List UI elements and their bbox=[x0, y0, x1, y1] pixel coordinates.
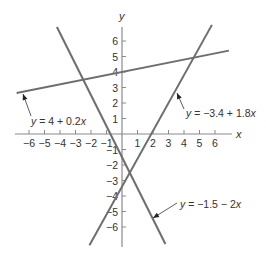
x-tick-label: 5 bbox=[197, 137, 203, 149]
x-tick-label: −2 bbox=[85, 137, 97, 149]
y-tick-label: −6 bbox=[106, 221, 118, 233]
x-tick-label: 4 bbox=[181, 137, 187, 149]
x-tick-label: 3 bbox=[166, 137, 172, 149]
equation-label-line2: y = −1.5 − 2x bbox=[179, 198, 242, 210]
x-tick-label: −6 bbox=[23, 137, 35, 149]
plot-lines bbox=[17, 25, 229, 245]
x-axis-label: x bbox=[235, 128, 242, 140]
y-tick-label: −3 bbox=[106, 175, 118, 187]
linear-graph: −6−5−4−3−2−1123456−6−5−4−3−2−1123456 x y… bbox=[0, 0, 266, 257]
x-tick-label: −4 bbox=[54, 137, 66, 149]
y-axis-label: y bbox=[118, 10, 126, 22]
arrowhead-icon bbox=[23, 94, 28, 100]
y-tick-label: 6 bbox=[112, 35, 118, 47]
y-tick-label: 1 bbox=[112, 113, 118, 125]
x-tick-label: −5 bbox=[39, 137, 51, 149]
y-tick-label: 5 bbox=[112, 51, 118, 63]
arrowhead-icon bbox=[153, 213, 159, 218]
equation-label-line1: y = 4 + 0.2x bbox=[30, 115, 87, 127]
x-tick-label: 6 bbox=[212, 137, 218, 149]
series-line-3 bbox=[89, 25, 211, 245]
annotations bbox=[23, 93, 184, 218]
equation-label-line3: y = −3.4 + 1.8x bbox=[185, 107, 257, 119]
y-tick-label: −2 bbox=[106, 159, 118, 171]
y-tick-label: 3 bbox=[112, 82, 118, 94]
x-tick-label: 1 bbox=[135, 137, 141, 149]
y-tick-label: 2 bbox=[112, 97, 118, 109]
x-tick-label: 2 bbox=[150, 137, 156, 149]
x-tick-label: −3 bbox=[70, 137, 82, 149]
